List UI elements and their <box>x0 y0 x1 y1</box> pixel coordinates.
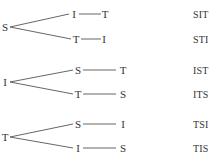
result-label: SIT <box>193 10 209 20</box>
third-node: T <box>120 65 127 76</box>
third-node: T <box>102 9 109 20</box>
third-node: I <box>121 119 125 130</box>
second-node: I <box>72 9 76 20</box>
second-node: T <box>75 89 82 100</box>
root-node: I <box>3 77 7 88</box>
root-node: T <box>2 132 9 143</box>
result-label: STI <box>193 35 209 45</box>
tree-lines <box>0 0 214 158</box>
result-label: ITS <box>193 90 209 100</box>
result-label: TSI <box>193 120 209 130</box>
second-node: S <box>75 65 81 76</box>
second-node: S <box>75 119 81 130</box>
second-node: I <box>76 143 80 154</box>
third-node: S <box>120 89 126 100</box>
result-label: TIS <box>193 144 209 154</box>
second-node: T <box>73 34 80 45</box>
result-label: IST <box>193 66 209 76</box>
third-node: S <box>120 143 126 154</box>
root-node: S <box>2 22 8 33</box>
third-node: I <box>102 34 106 45</box>
